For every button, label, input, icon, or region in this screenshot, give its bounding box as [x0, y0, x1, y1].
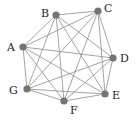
node-f	[60, 97, 67, 104]
edge-a-g	[23, 47, 27, 89]
complete-graph-k7: ABCDEFG	[0, 0, 140, 122]
node-label-d: D	[120, 52, 129, 65]
node-label-c: C	[104, 2, 112, 15]
edge-c-g	[27, 11, 98, 89]
edge-b-d	[56, 15, 113, 58]
node-b	[52, 11, 59, 18]
node-a	[19, 43, 26, 50]
node-label-g: G	[9, 84, 18, 97]
edges-group	[23, 11, 113, 101]
edge-c-e	[98, 11, 105, 94]
node-label-a: A	[6, 41, 16, 54]
node-d	[109, 54, 116, 61]
node-label-f: F	[70, 104, 78, 117]
edge-a-d	[23, 47, 113, 58]
node-g	[23, 85, 30, 92]
node-label-b: B	[41, 7, 49, 20]
graph-canvas: ABCDEFG	[0, 0, 140, 122]
edge-a-b	[23, 15, 56, 47]
edge-a-e	[23, 47, 105, 94]
edge-b-e	[56, 15, 105, 94]
node-e	[101, 90, 108, 97]
node-label-e: E	[112, 89, 120, 102]
node-c	[94, 7, 101, 14]
